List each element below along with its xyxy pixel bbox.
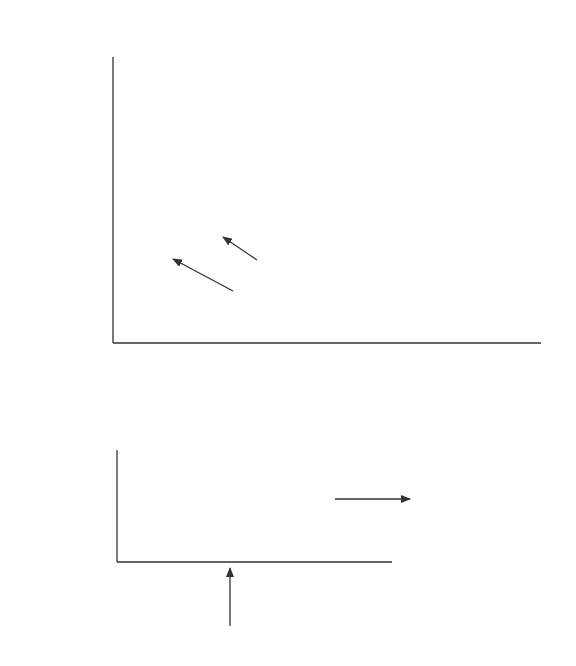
figure <box>0 0 576 666</box>
arrow-annual-volume <box>223 237 257 260</box>
crown-diagram <box>117 450 410 626</box>
top-chart <box>0 0 541 343</box>
arrow-branch-production <box>173 259 233 291</box>
